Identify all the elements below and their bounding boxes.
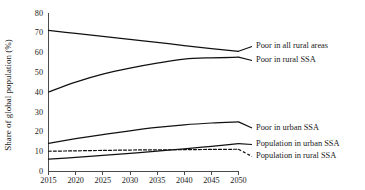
y-tick-label: 50 [35,68,43,77]
x-tick-label: 2040 [176,176,192,185]
y-tick-label: 10 [35,147,43,156]
series-line-3 [49,144,239,160]
legend-stub-2 [239,122,253,128]
y-tick-label: 0 [39,167,43,176]
x-tick-label: 2030 [122,176,138,185]
legend-stub-1 [239,57,253,60]
y-tick-label: 60 [35,48,43,57]
x-tick-label: 2045 [203,176,219,185]
x-tick-label: 2025 [95,176,111,185]
x-tick-label: 2015 [40,176,56,185]
y-tick-label: 80 [35,9,43,18]
legend-stub-3 [239,144,253,145]
y-axis-tick-labels: 80 70 60 50 40 30 20 10 0 [35,9,43,177]
legend-label-2: Poor in urban SSA [256,123,319,132]
series-layer [49,30,239,159]
x-axis-tick-labels: 2015 2020 2025 2030 2035 2040 2045 2050 [40,176,246,185]
y-tick-label: 70 [35,28,43,37]
series-line-4 [49,149,239,151]
legend-stub-0 [239,47,253,52]
y-tick-label: 20 [35,127,43,136]
legend-label-3: Population in urban SSA [256,139,340,148]
legend-stub-4 [239,149,253,156]
y-axis-title: Share of global population (%) [3,39,13,150]
line-chart: Share of global population (%) 80 70 60 … [0,0,365,190]
chart-legend: Poor in all rural areasPoor in rural SSA… [239,41,340,160]
series-line-2 [49,122,239,143]
chart-figure: Share of global population (%) 80 70 60 … [0,0,365,190]
legend-label-1: Poor in rural SSA [256,55,316,64]
x-tick-label: 2050 [230,176,246,185]
series-line-1 [49,57,239,92]
series-line-0 [49,30,239,51]
x-tick-label: 2035 [149,176,165,185]
y-tick-label: 30 [35,108,43,117]
legend-label-4: Population in rural SSA [256,151,336,160]
x-tick-label: 2020 [68,176,84,185]
y-tick-label: 40 [35,88,43,97]
legend-label-0: Poor in all rural areas [256,41,328,50]
